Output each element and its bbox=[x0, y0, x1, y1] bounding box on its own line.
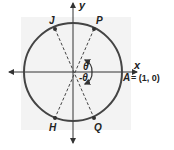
label-A: A bbox=[122, 72, 130, 83]
point-P bbox=[92, 27, 96, 31]
y-axis-label: y bbox=[78, 0, 86, 11]
background-panel bbox=[21, 17, 131, 130]
angle-theta-label: θ bbox=[83, 61, 89, 72]
point-A-coordinates: = (1, 0) bbox=[131, 73, 160, 83]
point-Q bbox=[92, 116, 96, 120]
point-H bbox=[53, 116, 57, 120]
label-J: J bbox=[49, 15, 55, 26]
label-P: P bbox=[96, 15, 103, 26]
point-J bbox=[53, 27, 57, 31]
label-H: H bbox=[49, 122, 57, 133]
angle-neg-theta-label: -θ bbox=[79, 72, 88, 83]
x-axis-label: x bbox=[133, 59, 141, 71]
label-Q: Q bbox=[94, 122, 102, 133]
unit-circle-diagram: y x J P H Q θ -θ A = (1, 0) bbox=[0, 0, 174, 150]
